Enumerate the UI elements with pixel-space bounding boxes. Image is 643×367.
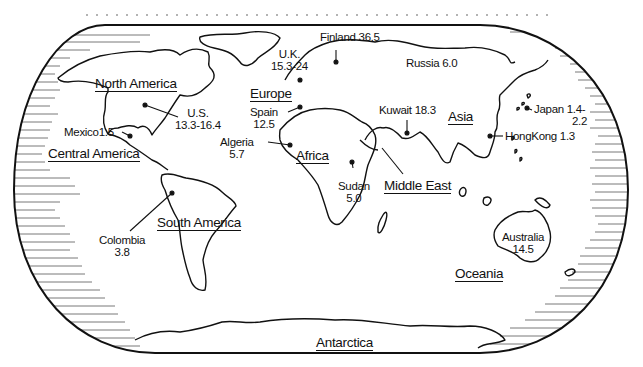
marker-value-2: 2.2	[534, 115, 587, 127]
marker-name: Finland	[320, 31, 356, 43]
marker-label-hongkong: HongKong 1.3	[505, 130, 575, 142]
marker-value: 1.4-	[567, 103, 586, 115]
marker-name: Australia	[502, 231, 544, 243]
marker-name: Mexico	[64, 126, 99, 138]
marker-label-spain: Spain 12.5	[250, 106, 278, 130]
marker-name: Kuwait	[379, 104, 412, 116]
marker-name: Japan	[534, 103, 564, 115]
marker-label-russia: Russia 6.0	[406, 57, 457, 69]
marker-name: U.S.	[175, 107, 221, 119]
marker-value: 5.0	[338, 192, 370, 204]
greenland-outline	[200, 32, 280, 66]
region-label-middle-east: Middle East	[384, 178, 451, 194]
marker-value: 14.5	[502, 243, 544, 255]
marker-name: Sudan	[338, 180, 370, 192]
europe-outline	[285, 40, 515, 80]
marker-name: Algeria	[220, 136, 254, 148]
africa-outline	[280, 109, 376, 225]
marker-pointers	[122, 50, 532, 231]
marker-name: Russia	[406, 57, 439, 69]
marker-label-finland: Finland 36.5	[320, 31, 380, 43]
marker-name: U.K.	[271, 48, 308, 60]
marker-label-sudan: Sudan 5.0	[338, 180, 370, 204]
marker-value: 1.5	[99, 126, 114, 138]
marker-value: 18.3	[415, 104, 436, 116]
region-label-antarctica: Antarctica	[316, 335, 373, 351]
marker-label-australia: Australia 14.5	[502, 231, 544, 255]
region-label-asia: Asia	[448, 109, 473, 125]
region-label-europe: Europe	[250, 86, 292, 102]
region-label-africa: Africa	[296, 148, 329, 164]
marker-value: 1.3	[560, 130, 575, 142]
marker-value: 15.3-24	[271, 60, 308, 72]
marker-value: 6.0	[442, 57, 457, 69]
marker-value: 3.8	[99, 246, 145, 258]
marker-label-kuwait: Kuwait 18.3	[379, 104, 436, 116]
marker-value: 36.5	[359, 31, 380, 43]
region-label-south-america: South America	[157, 215, 241, 231]
marker-name: Spain	[250, 106, 278, 118]
region-label-oceania: Oceania	[455, 266, 503, 282]
marker-value: 12.5	[250, 118, 278, 130]
marker-name: HongKong	[505, 130, 557, 142]
marker-label-colombia: Colombia 3.8	[99, 234, 145, 258]
marker-label-us: U.S. 13.3-16.4	[175, 107, 221, 131]
dotted-guide-line	[86, 14, 548, 16]
marker-value: 13.3-16.4	[175, 119, 221, 131]
marker-label-algeria: Algeria 5.7	[220, 136, 254, 160]
marker-value: 5.7	[220, 148, 254, 160]
marker-name: Colombia	[99, 234, 145, 246]
marker-label-japan: Japan 1.4- 2.2	[534, 103, 587, 127]
region-label-north-america: North America	[95, 76, 177, 92]
madagascar-outline	[378, 212, 387, 232]
world-map	[0, 0, 643, 367]
map-frame	[14, 25, 628, 353]
middle-east-outline	[360, 128, 383, 151]
marker-label-uk: U.K. 15.3-24	[271, 48, 308, 72]
marker-label-mexico: Mexico1.5	[64, 126, 114, 138]
region-label-central-america: Central America	[48, 146, 140, 162]
